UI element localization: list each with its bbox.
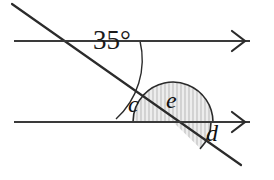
diagram-svg <box>0 0 274 180</box>
angle-label-35: 35° <box>93 25 131 56</box>
geometry-diagram-canvas: 35° c e d <box>0 0 274 180</box>
angle-label-c: c <box>128 91 139 118</box>
angle-label-d: d <box>206 120 218 147</box>
angle-label-e: e <box>166 87 177 114</box>
